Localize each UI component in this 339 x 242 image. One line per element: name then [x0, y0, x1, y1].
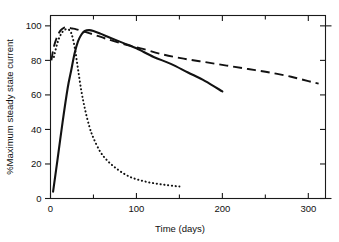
chart-figure: 0100200300020406080100Time (days)%Maximu… — [0, 0, 339, 242]
plot-box — [51, 16, 326, 199]
x-tick-label: 200 — [214, 203, 230, 214]
y-tick-label: 20 — [31, 158, 42, 169]
y-tick-label: 100 — [26, 20, 42, 31]
y-tick-label: 0 — [36, 193, 41, 204]
x-tick-label: 300 — [300, 203, 316, 214]
data-series-group — [51, 27, 318, 191]
series-dotted-curve — [54, 29, 179, 186]
chart-canvas: 0100200300020406080100Time (days)%Maximu… — [0, 0, 339, 242]
y-tick-label: 40 — [31, 124, 42, 135]
plot-frame — [51, 16, 326, 199]
series-solid-curve — [53, 30, 222, 191]
y-tick-label: 80 — [31, 55, 42, 66]
x-tick-label: 100 — [129, 203, 145, 214]
x-axis-title: Time (days) — [155, 223, 205, 234]
tick-marks — [45, 16, 332, 199]
x-tick-label: 0 — [48, 203, 53, 214]
y-tick-label: 60 — [31, 89, 42, 100]
y-axis-title: %Maximum steady state current — [4, 39, 15, 175]
series-dashed-curve — [51, 27, 318, 83]
